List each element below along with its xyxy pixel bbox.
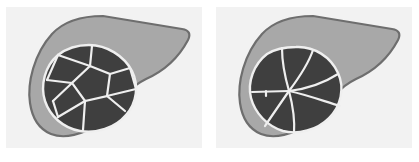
tumor-mass-icon [43,45,136,132]
panel-right-stellate [216,7,412,148]
liver-diagram-multinodular [6,7,202,148]
panel-left-multinodular [6,7,202,148]
liver-diagram-stellate [216,7,412,148]
figure-root: Liver tumour growth pattern comparison [0,0,419,162]
